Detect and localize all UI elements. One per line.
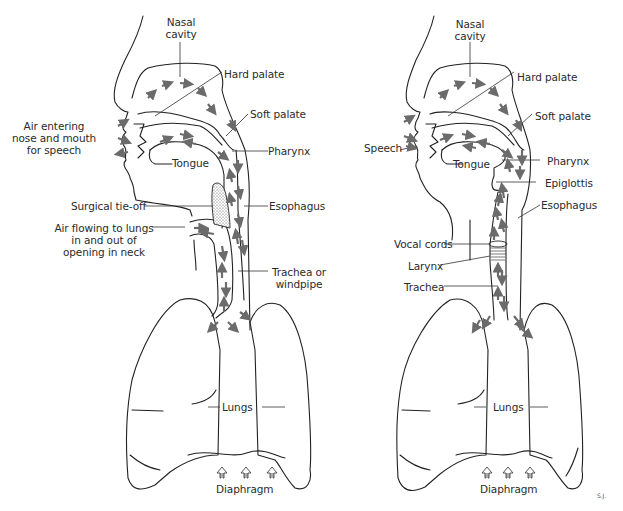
label-line: Air entering — [4, 120, 104, 132]
label-line: nose and mouth — [4, 132, 104, 144]
label-epiglottis: Epiglottis — [545, 177, 593, 189]
artist-initials: S.J. — [597, 490, 606, 502]
label-line: for speech — [4, 144, 104, 156]
label-line: Nasal — [163, 16, 199, 28]
label-line: Trachea or — [268, 266, 330, 278]
label-pharynx-right: Pharynx — [547, 155, 589, 167]
right-diagram — [397, 16, 583, 490]
label-air-flowing: Air flowing to lungs in and out of openi… — [54, 222, 154, 258]
label-surgical-tie-off: Surgical tie-off — [71, 200, 146, 212]
label-esophagus-right: Esophagus — [541, 199, 597, 211]
label-speech: Speech — [364, 142, 402, 154]
label-line: opening in neck — [54, 246, 154, 258]
label-soft-palate-right: Soft palate — [535, 110, 591, 122]
label-esophagus-left: Esophagus — [269, 200, 325, 212]
label-line: cavity — [452, 30, 488, 42]
label-line: cavity — [163, 28, 199, 40]
label-soft-palate-left: Soft palate — [250, 108, 306, 120]
label-larynx: Larynx — [408, 260, 443, 272]
label-nasal-cavity-left: Nasal cavity — [163, 16, 199, 40]
label-line: in and out of — [54, 234, 154, 246]
label-diaphragm-right: Diaphragm — [480, 483, 538, 495]
label-vocal-cords: Vocal cords — [394, 238, 453, 250]
label-nasal-cavity-right: Nasal cavity — [452, 18, 488, 42]
label-hard-palate-right: Hard palate — [517, 71, 577, 83]
label-diaphragm-left: Diaphragm — [216, 483, 274, 495]
label-tongue-right: Tongue — [453, 158, 490, 170]
label-trachea-right: Trachea — [404, 281, 444, 293]
label-lungs-left: Lungs — [222, 401, 253, 413]
label-line: Nasal — [452, 18, 488, 30]
label-line: windpipe — [268, 278, 330, 290]
label-hard-palate-left: Hard palate — [224, 68, 284, 80]
label-air-entering: Air entering nose and mouth for speech — [4, 120, 104, 156]
label-tongue-left: Tongue — [172, 157, 209, 169]
label-pharynx-left: Pharynx — [268, 145, 310, 157]
label-trachea-left: Trachea or windpipe — [268, 266, 330, 290]
label-lungs-right: Lungs — [493, 401, 524, 413]
label-line: Air flowing to lungs — [54, 222, 154, 234]
